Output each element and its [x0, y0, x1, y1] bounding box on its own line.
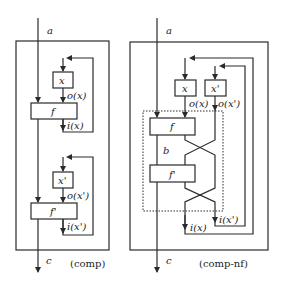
output-label: c	[166, 255, 172, 266]
in-label-ix: i(x)	[67, 120, 84, 131]
wire-cross-2a	[185, 182, 215, 222]
caption-comp: (comp)	[70, 258, 105, 269]
in-label-ix: i(x)	[190, 222, 207, 233]
in-label-ix-prime: i(x')	[219, 214, 238, 225]
state-label-x-prime: x'	[211, 83, 219, 94]
out-label-ox: o(x)	[67, 90, 87, 101]
loop-arrow-icon	[66, 55, 72, 61]
caption-comp-nf: (comp-nf)	[199, 258, 248, 269]
out-label-ox: o(x)	[189, 98, 209, 109]
comp-diagram: a x f o(x) i(x) x' f' o(x') i(x') c (com…	[16, 18, 109, 272]
state-label-x: x	[182, 83, 188, 94]
diagram-canvas: a x f o(x) i(x) x' f' o(x') i(x') c (com…	[0, 0, 282, 287]
intermediate-label-b: b	[163, 145, 169, 156]
function-label-f-prime: f'	[49, 206, 56, 217]
outer-box	[130, 42, 268, 250]
input-label: a	[166, 25, 172, 36]
out-label-ox-prime: o(x')	[218, 98, 240, 109]
out-label-ox-prime: o(x')	[67, 190, 89, 201]
input-label: a	[47, 25, 53, 36]
function-label-f-prime: f'	[168, 169, 175, 180]
state-label-x-prime: x'	[58, 175, 66, 186]
loop-arrow-icon	[66, 154, 72, 160]
output-label: c	[46, 255, 52, 266]
loop-arrow-icon	[189, 55, 195, 61]
wire-cross-1a	[185, 135, 215, 165]
loop-arrow-icon	[219, 63, 225, 69]
in-label-ix-prime: i(x')	[67, 221, 86, 232]
state-label-x: x	[59, 75, 65, 86]
comp-nf-diagram: a x x' o(x) o(x') f b f' i(x) i(x') c (c…	[130, 18, 268, 272]
